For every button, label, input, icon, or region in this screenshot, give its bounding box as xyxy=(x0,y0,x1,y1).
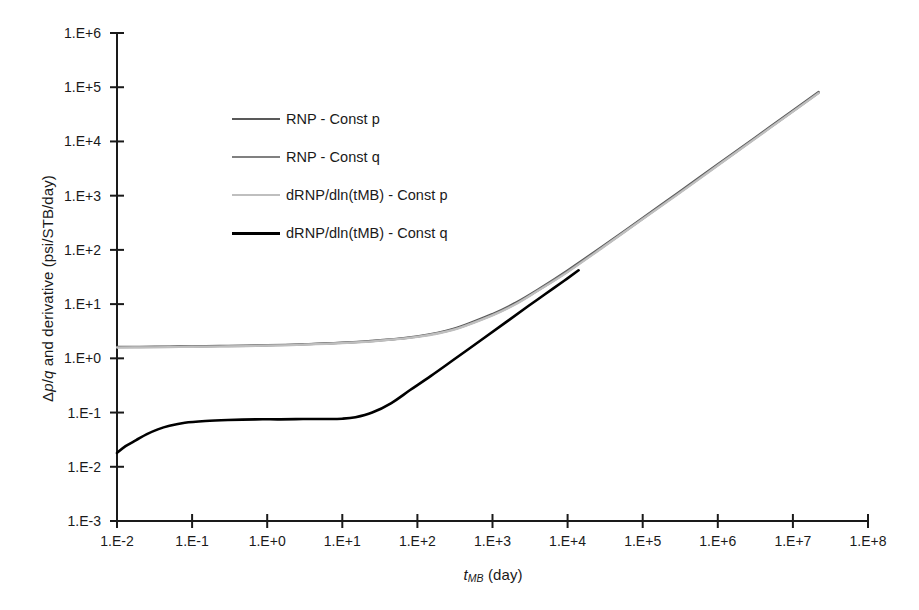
legend-item-label: dRNP/dln(tMB) - Const p xyxy=(286,187,448,203)
y-axis-title-delta: Δ xyxy=(39,392,56,402)
legend-item[interactable]: dRNP/dln(tMB) - Const p xyxy=(232,176,448,214)
plot-canvas xyxy=(0,0,919,610)
x-tick-label: 1.E+8 xyxy=(823,533,913,549)
legend-swatch-icon xyxy=(232,118,280,120)
legend-item-label: RNP - Const p xyxy=(286,111,380,127)
legend-item[interactable]: RNP - Const p xyxy=(232,100,448,138)
y-axis-title-q: q xyxy=(39,371,56,379)
y-axis-title-p: p xyxy=(39,383,56,391)
chart-legend: RNP - Const pRNP - Const qdRNP/dln(tMB) … xyxy=(232,100,448,252)
data-series-group xyxy=(117,92,819,453)
legend-swatch-icon xyxy=(232,156,280,158)
data-series-line xyxy=(117,92,819,347)
legend-item-label: RNP - Const q xyxy=(286,149,380,165)
legend-swatch-icon xyxy=(232,194,280,196)
data-series-line xyxy=(117,270,579,453)
x-axis-title-unit: (day) xyxy=(488,566,523,583)
data-series-line xyxy=(117,93,819,348)
y-tick-label: 1.E+6 xyxy=(31,25,101,41)
y-tick-label: 1.E-3 xyxy=(31,513,101,529)
legend-item-label: dRNP/dln(tMB) - Const q xyxy=(286,225,448,241)
chart-figure: 1.E-31.E-21.E-11.E+01.E+11.E+21.E+31.E+4… xyxy=(0,0,919,610)
x-axis-title-subscript: MB xyxy=(468,572,484,584)
axes-group xyxy=(110,33,868,528)
y-axis-title: Δp/q and derivative (psi/STB/day) xyxy=(39,109,56,469)
legend-item[interactable]: RNP - Const q xyxy=(232,138,448,176)
legend-swatch-icon xyxy=(232,232,280,235)
x-axis-title: tMB (day) xyxy=(313,566,673,584)
y-tick-label: 1.E+5 xyxy=(31,79,101,95)
legend-item[interactable]: dRNP/dln(tMB) - Const q xyxy=(232,214,448,252)
y-axis-title-rest: and derivative (psi/STB/day) xyxy=(39,175,56,370)
y-axis-title-slash: / xyxy=(39,379,56,383)
data-series-line xyxy=(117,93,819,347)
